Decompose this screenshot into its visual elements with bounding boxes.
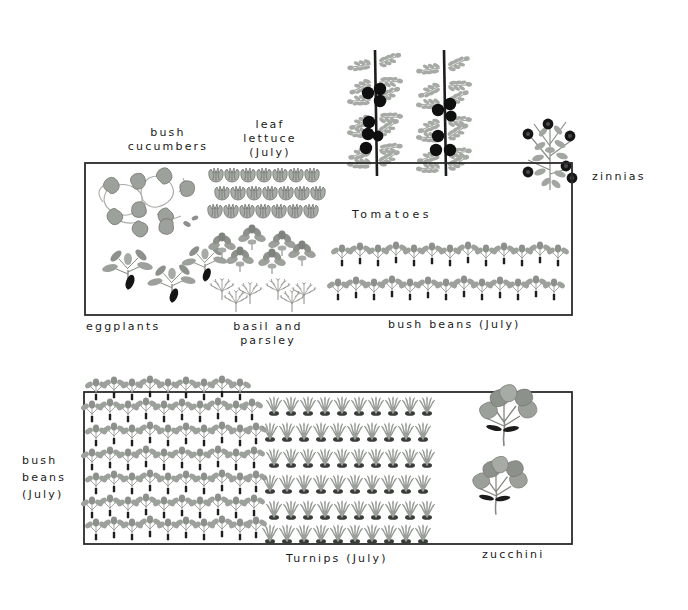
plot-tomatoes: [346, 50, 473, 177]
garden-illustration: [0, 0, 688, 610]
label-leaf-lettuce: leaf lettuce (July): [222, 118, 318, 160]
turnip-row: [267, 449, 435, 468]
plot-zinnias: [523, 119, 578, 190]
lower-bed-plants: [80, 376, 572, 545]
plot-turnips: [263, 397, 435, 544]
plot-eggplants: [101, 244, 228, 304]
label-bush-cucumbers: bush cucumbers: [108, 126, 228, 154]
plot-bush-beans-lower: [80, 376, 268, 542]
bean-row: [330, 242, 570, 268]
plot-zucchini: [473, 385, 537, 515]
label-zinnias: zinnias: [592, 170, 688, 184]
bean-row: [84, 422, 268, 448]
lettuce-row: [215, 186, 325, 200]
label-eggplants: eggplants: [86, 320, 196, 334]
plot-parsley: [210, 279, 316, 312]
turnip-row: [267, 501, 435, 520]
label-bush-beans-upper: bush beans (July): [388, 318, 588, 332]
plot-bush-beans-upper: [326, 242, 570, 302]
bean-row: [326, 276, 566, 302]
garden-plan: bush cucumbers leaf lettuce (July) Tomat…: [0, 0, 688, 610]
upper-bed-plants: [85, 50, 577, 315]
lettuce-row: [208, 204, 318, 218]
plot-leaf-lettuce: [208, 168, 325, 218]
lettuce-row: [209, 168, 319, 182]
bean-row: [80, 494, 266, 520]
bean-row: [84, 470, 268, 496]
turnip-row: [263, 423, 431, 442]
bean-row: [80, 446, 266, 472]
label-zucchini: zucchini: [482, 548, 572, 562]
bean-row: [84, 376, 252, 402]
bean-row: [84, 516, 268, 542]
label-tomatoes: Tomatoes: [352, 208, 492, 222]
plot-basil: [207, 225, 317, 274]
turnip-row: [263, 475, 431, 494]
label-turnips: Turnips (July): [286, 552, 446, 566]
plot-bush-cucumbers: [99, 167, 199, 240]
label-basil-and-parsley: basil and parsley: [210, 320, 326, 348]
label-bush-beans-lower: bush beans (July): [22, 452, 88, 503]
turnip-row: [267, 397, 435, 416]
bean-row: [80, 398, 264, 424]
turnip-row: [263, 525, 431, 544]
